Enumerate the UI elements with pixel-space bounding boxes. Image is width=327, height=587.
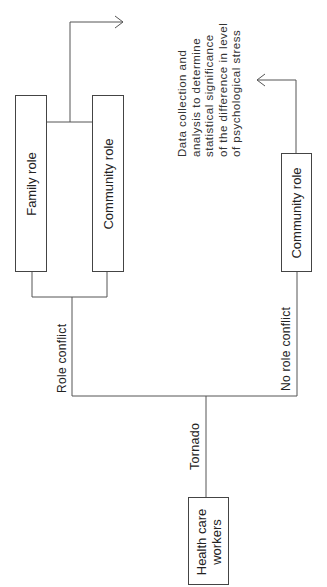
connector-lines	[0, 0, 327, 587]
outcome-line-2: analysis to determine	[190, 7, 204, 157]
tornado-label: Tornado	[188, 423, 202, 470]
outcome-line-1: Data collection and	[176, 7, 190, 157]
outcome-line-4: of the difference in level	[217, 7, 231, 157]
health-care-workers-label-2: workers	[209, 498, 224, 586]
family-role-node: Family role	[15, 95, 47, 272]
outcome-line-3: statistical significance	[203, 7, 217, 157]
community-role-label-no-conflict: Community role	[289, 154, 305, 273]
health-care-workers-label-1: Health care	[194, 498, 209, 586]
outcome-note: Data collection and analysis to determin…	[176, 7, 244, 157]
outcome-line-5: of psychological stress	[230, 7, 244, 157]
family-role-label: Family role	[24, 96, 40, 273]
community-role-node-no-conflict: Community role	[281, 153, 312, 272]
community-role-node-conflict: Community role	[92, 95, 124, 272]
flow-diagram: Health care workers Tornado Role conflic…	[0, 0, 327, 587]
no-role-conflict-label: No role conflict	[279, 307, 293, 391]
health-care-workers-node: Health care workers	[188, 497, 229, 585]
community-role-label-conflict: Community role	[101, 96, 117, 273]
role-conflict-label: Role conflict	[55, 324, 69, 393]
